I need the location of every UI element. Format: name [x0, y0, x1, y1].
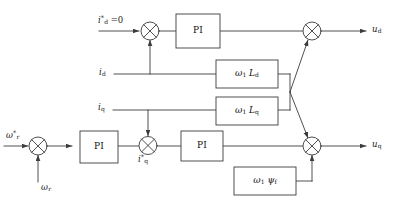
summing-junction-ud [303, 22, 321, 40]
wire-gain-ld-cross-to-sum-uq [290, 92, 308, 138]
summing-junction-d-current [141, 22, 159, 40]
block-label-gain-omega-psif: ω1 ψf [234, 176, 296, 185]
summing-junction-q-current [139, 137, 157, 155]
label-iq-feedback: iq [98, 103, 105, 112]
label-uq-output: uq [372, 140, 382, 149]
block-label-gain-omega-lq: ω1 Lq [216, 106, 278, 115]
block-label-pi-d-current: PI [176, 26, 220, 35]
block-label-pi-q-current: PI [181, 141, 223, 150]
block-diagram-canvas: i*d =0 id iq i*q ω*r ωr ud uq PI ω1 Ld ω… [0, 0, 397, 210]
label-speed-feedback: ωr [41, 183, 51, 192]
block-label-pi-speed: PI [80, 142, 118, 151]
label-ud-output: ud [372, 25, 382, 34]
summing-junction-speed [29, 137, 47, 155]
label-iq-reference: i*q [138, 154, 148, 164]
label-speed-reference: ω*r [6, 130, 19, 140]
summing-junction-uq [303, 137, 321, 155]
block-label-gain-omega-ld: ω1 Ld [216, 69, 278, 78]
wire-gain-lq-cross-to-sum-ud [290, 40, 308, 92]
label-id-feedback: id [99, 68, 106, 77]
label-id-reference: i*d =0 [98, 15, 123, 25]
